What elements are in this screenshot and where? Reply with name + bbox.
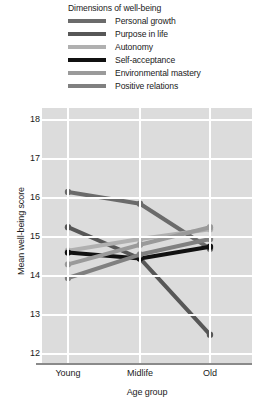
gridline-vertical [67,108,69,364]
gridline-horizontal [42,353,252,355]
gridline-horizontal [42,275,252,277]
plot-area [42,108,252,364]
legend-item-self-acceptance[interactable]: Self-acceptance [68,53,175,66]
legend-item-label: Positive relations [115,81,178,91]
legend-item-label: Purpose in life [115,29,168,39]
y-axis-tick-label: 12 [26,349,40,358]
legend-swatch-icon [68,84,106,88]
gridline-vertical [209,108,211,364]
gridline-vertical [139,108,141,364]
gridline-horizontal [42,314,252,316]
gridline-horizontal [42,158,252,160]
x-axis-line [36,363,252,365]
legend-item-purpose-in-life[interactable]: Purpose in life [68,27,168,40]
y-axis-tick-label: 17 [26,154,40,163]
legend-swatch-icon [68,45,106,49]
legend-item-autonomy[interactable]: Autonomy [68,40,153,53]
x-axis-title: Age group [42,387,252,397]
legend-item-label: Autonomy [115,42,153,52]
legend: Dimensions of well-being Personal growth… [0,0,256,104]
y-axis-tick-label: 13 [26,310,40,319]
legend-swatch-icon [68,19,106,23]
y-axis-title: Mean well-being score [16,166,26,296]
legend-swatch-icon [68,32,106,36]
gridline-horizontal [42,197,252,199]
legend-item-label: Personal growth [115,16,176,26]
gridline-horizontal [42,119,252,121]
y-axis-tick-label: 14 [26,271,40,280]
legend-item-positive-relations[interactable]: Positive relations [68,79,178,92]
x-axis-tick-label: Young [38,369,98,378]
legend-item-label: Self-acceptance [115,55,175,65]
y-axis-tick-label: 16 [26,193,40,202]
legend-title: Dimensions of well-being [68,3,161,13]
x-axis-tick-label: Midlife [110,369,170,378]
legend-swatch-icon [68,58,106,62]
gridline-horizontal [42,236,252,238]
legend-swatch-icon [68,71,106,75]
y-axis-tick-label: 15 [26,232,40,241]
line-chart: Mean well-being score Age group 12131415… [0,104,256,409]
legend-item-personal-growth[interactable]: Personal growth [68,14,176,27]
x-axis-tick-label: Old [180,369,240,378]
legend-item-environmental-mastery[interactable]: Environmental mastery [68,66,201,79]
y-axis-tick-label: 18 [26,115,40,124]
legend-item-label: Environmental mastery [115,68,201,78]
